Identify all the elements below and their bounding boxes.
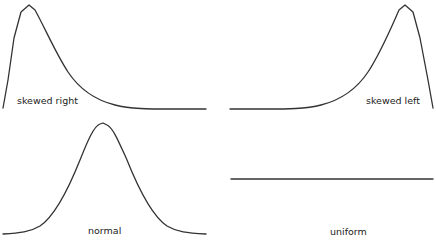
skewed-right-curve: [3, 5, 206, 109]
skewed-left-curve: [230, 5, 433, 109]
distribution-shapes-diagram: [0, 0, 436, 243]
normal-label: normal: [88, 226, 121, 236]
uniform-label: uniform: [330, 227, 367, 237]
skewed-right-label: skewed right: [17, 96, 78, 106]
normal-curve: [3, 123, 206, 234]
skewed-left-label: skewed left: [366, 96, 420, 106]
